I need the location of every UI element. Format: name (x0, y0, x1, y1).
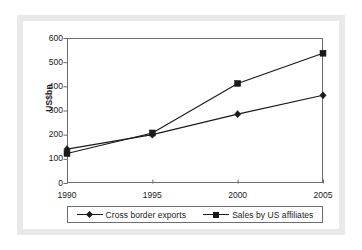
legend-diamond-marker-icon (86, 211, 93, 218)
figure-frame: US$bn 0100200300400500600 19901995200020… (17, 15, 345, 235)
legend-entry[interactable]: Sales by US affiliates (203, 210, 313, 220)
chart-legend: Cross border exportsSales by US affiliat… (67, 206, 323, 223)
series-line (67, 95, 323, 149)
data-point-diamond (320, 92, 326, 99)
legend-label: Cross border exports (106, 210, 186, 220)
data-point-square (235, 80, 241, 86)
figure-surface: US$bn 0100200300400500600 19901995200020… (23, 21, 339, 229)
data-point-diamond (234, 111, 240, 118)
legend-swatch (203, 210, 229, 219)
plot-border (68, 39, 323, 183)
data-point-square (149, 130, 155, 136)
legend-swatch (77, 210, 103, 219)
plot-svg (23, 21, 339, 229)
data-point-square (64, 151, 70, 157)
legend-label: Sales by US affiliates (232, 210, 313, 220)
line-chart: US$bn 0100200300400500600 19901995200020… (23, 21, 339, 229)
figure-canvas: US$bn 0100200300400500600 19901995200020… (0, 0, 362, 250)
legend-square-marker-icon (213, 212, 219, 218)
legend-entry[interactable]: Cross border exports (77, 210, 186, 220)
data-point-square (320, 50, 326, 56)
